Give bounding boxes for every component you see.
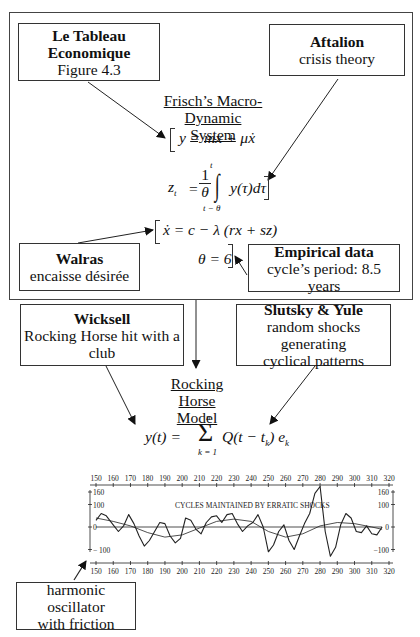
oscillator-box: harmonic oscillator with friction [16, 582, 136, 630]
svg-text:320: 320 [383, 474, 395, 483]
svg-text:240: 240 [245, 474, 257, 483]
oscillator-line1: harmonic oscillator [17, 581, 135, 615]
svg-text:270: 270 [297, 474, 309, 483]
svg-text:230: 230 [228, 474, 240, 483]
svg-text:300: 300 [349, 474, 361, 483]
svg-text:300: 300 [349, 567, 361, 576]
svg-text:160: 160 [378, 488, 390, 497]
oscillator-line2: with friction [17, 615, 135, 632]
svg-text:100: 100 [378, 501, 390, 510]
svg-text:150: 150 [90, 567, 102, 576]
svg-text:190: 190 [159, 567, 171, 576]
svg-text:100: 100 [93, 501, 105, 510]
svg-text:250: 250 [263, 567, 275, 576]
svg-text:150: 150 [90, 474, 102, 483]
svg-text:180: 180 [142, 567, 154, 576]
svg-text:160: 160 [93, 488, 105, 497]
svg-text:0: 0 [93, 523, 97, 532]
svg-text:260: 260 [280, 567, 292, 576]
svg-text:CYCLES MAINTAINED BY ERRATIC S: CYCLES MAINTAINED BY ERRATIC SHOCKS [175, 501, 330, 510]
svg-text:290: 290 [332, 474, 344, 483]
svg-text:270: 270 [297, 567, 309, 576]
svg-text:240: 240 [245, 567, 257, 576]
svg-text:220: 220 [211, 567, 223, 576]
svg-text:−100: −100 [374, 546, 390, 555]
svg-text:200: 200 [177, 474, 189, 483]
svg-text:− 100: − 100 [93, 546, 111, 555]
svg-text:290: 290 [332, 567, 344, 576]
svg-text:210: 210 [194, 567, 206, 576]
svg-text:160: 160 [108, 567, 120, 576]
svg-text:280: 280 [314, 474, 326, 483]
svg-text:220: 220 [211, 474, 223, 483]
svg-text:170: 170 [125, 474, 137, 483]
svg-text:200: 200 [177, 567, 189, 576]
svg-text:260: 260 [280, 474, 292, 483]
svg-text:310: 310 [366, 474, 378, 483]
svg-text:190: 190 [159, 474, 171, 483]
svg-text:160: 160 [108, 474, 120, 483]
svg-text:170: 170 [125, 567, 137, 576]
erratic-shocks-chart: 1501501601601701701801801901902002002102… [0, 0, 420, 637]
svg-text:210: 210 [194, 474, 206, 483]
svg-text:180: 180 [142, 474, 154, 483]
svg-text:310: 310 [366, 567, 378, 576]
svg-text:280: 280 [314, 567, 326, 576]
svg-text:230: 230 [228, 567, 240, 576]
svg-text:250: 250 [263, 474, 275, 483]
svg-text:320: 320 [383, 567, 395, 576]
svg-text:0: 0 [385, 523, 389, 532]
